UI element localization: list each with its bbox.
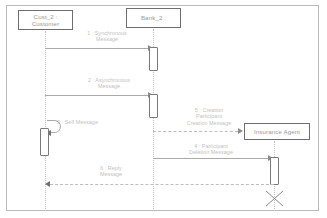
message-2-line[interactable]	[45, 95, 148, 96]
message-3-label-line1: 3 : Self Message	[57, 119, 119, 125]
message-5-label: 5 : Creation Participant Creation Messag…	[165, 107, 253, 126]
sequence-diagram-canvas: Cust_2 : Customer Bank_2 : Insurance Age…	[0, 0, 327, 218]
message-6-arrowhead	[45, 181, 50, 187]
message-5-arrowhead	[238, 128, 243, 134]
participant-customer[interactable]: Cust_2 : Customer	[18, 10, 73, 30]
message-4-label: 4 : Participant Deletion Message	[165, 143, 257, 156]
message-1-line[interactable]	[45, 48, 148, 49]
destruction-marker-icon	[265, 190, 284, 207]
activation-bank-2[interactable]	[149, 94, 158, 118]
message-4-label-line2: Deletion Message	[165, 149, 257, 155]
message-2-label-line2: Message	[65, 83, 153, 89]
participant-bank-name: Bank_2 :	[141, 14, 166, 21]
participant-insurance-agent-name: Insurance Agent	[254, 128, 300, 135]
activation-bank-1[interactable]	[149, 47, 158, 71]
message-3-label: 3 : Self Message	[57, 119, 119, 125]
message-1-label: 1 : Synchronous Message	[65, 30, 149, 43]
message-5-line[interactable]	[153, 131, 238, 132]
message-4-line[interactable]	[153, 158, 268, 159]
message-1-label-line2: Message	[65, 36, 149, 42]
participant-customer-name: Cust_2 :	[34, 13, 58, 20]
message-2-label: 2 : Asynchronous Message	[65, 77, 153, 90]
participant-customer-type: Customer	[32, 20, 60, 27]
message-6-label: 6 : Reply Message	[75, 165, 147, 178]
message-6-line[interactable]	[50, 184, 274, 185]
message-6-label-line2: Message	[75, 171, 147, 177]
activation-customer-1[interactable]	[40, 128, 49, 156]
activation-insurance-agent-1[interactable]	[270, 157, 279, 185]
participant-insurance-agent[interactable]: Insurance Agent	[244, 123, 310, 140]
diagram-frame: Cust_2 : Customer Bank_2 : Insurance Age…	[6, 5, 319, 211]
participant-bank[interactable]: Bank_2 :	[126, 8, 181, 28]
message-5-label-line3: Creation Message	[165, 120, 253, 126]
